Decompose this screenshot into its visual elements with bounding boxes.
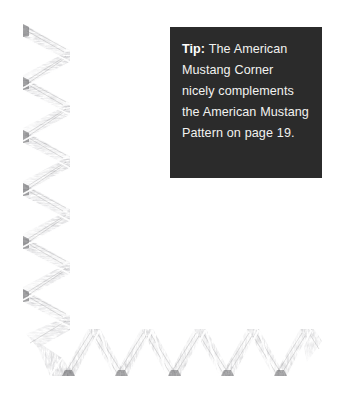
tip-callout-box: Tip: The American Mustang Corner nicely …: [170, 27, 322, 178]
horizontal-zigzag-band: [26, 329, 322, 376]
page-canvas: Tip: The American Mustang Corner nicely …: [0, 0, 338, 408]
tip-text: Tip: The American Mustang Corner nicely …: [182, 39, 309, 144]
vertical-zigzag-band: [23, 24, 70, 348]
tip-body: The American Mustang Corner nicely compl…: [182, 42, 309, 140]
tip-label: Tip:: [182, 42, 205, 56]
